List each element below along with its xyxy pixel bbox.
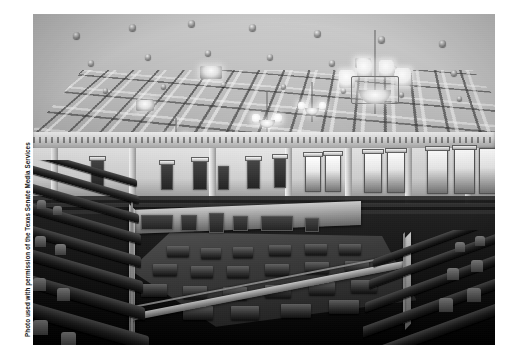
ceiling-boss xyxy=(457,96,462,101)
gallery-seat-back xyxy=(53,206,62,215)
gallery-seat-back xyxy=(475,236,485,246)
window-hood xyxy=(425,146,450,151)
wall-window xyxy=(479,148,495,194)
wall-window xyxy=(364,153,382,193)
gallery-seating-right xyxy=(363,230,495,345)
chandelier-globe xyxy=(379,60,394,77)
secondary-chandelier xyxy=(295,82,329,122)
member-desk xyxy=(281,304,311,318)
ceiling-boss xyxy=(188,20,195,27)
gallery-seat-back xyxy=(55,244,66,255)
ceiling-boss xyxy=(129,24,136,31)
gallery-seat-back xyxy=(33,320,48,335)
ceiling-boss xyxy=(249,24,256,31)
wall-window xyxy=(454,149,475,194)
member-desk xyxy=(231,306,259,320)
gallery-seat-back xyxy=(455,242,465,252)
gallery-seat-back xyxy=(61,332,76,345)
door-hood xyxy=(159,160,175,165)
member-desk xyxy=(201,248,221,259)
window-hood xyxy=(323,151,343,156)
wall-doorway xyxy=(274,158,286,188)
rostrum-panel xyxy=(233,216,248,231)
wall-window xyxy=(305,156,321,192)
ceiling-boss xyxy=(221,82,226,87)
rostrum-doorway xyxy=(209,213,224,233)
ceiling-boss xyxy=(267,54,273,60)
door-hood xyxy=(191,157,209,162)
ceiling-boss xyxy=(88,60,94,66)
window-hood xyxy=(452,145,477,150)
gallery-seat-back xyxy=(33,278,46,291)
chamber-photograph xyxy=(33,14,495,345)
door-hood xyxy=(272,154,288,159)
wall-doorway xyxy=(193,161,207,190)
ceiling-pendant-bowl xyxy=(200,66,222,79)
ceiling-boss xyxy=(73,32,80,39)
member-desk xyxy=(191,266,213,278)
wall-doorway xyxy=(161,164,173,190)
chandelier-bowl xyxy=(305,108,319,115)
member-desk xyxy=(233,247,253,258)
ceiling-boss xyxy=(103,88,108,93)
rostrum-panel xyxy=(305,218,319,232)
ceiling-boss xyxy=(161,84,166,89)
window-hood xyxy=(385,148,407,153)
member-desk xyxy=(339,244,361,255)
member-desk xyxy=(329,300,359,314)
ceiling-boss xyxy=(439,40,446,47)
gallery-seat-back xyxy=(467,288,481,302)
rostrum-panel xyxy=(261,216,293,231)
wall-doorway xyxy=(218,166,229,190)
page-canvas: Photo used with permission of the Texas … xyxy=(0,0,518,362)
wall-window xyxy=(427,150,448,194)
chandelier-rod xyxy=(312,82,313,122)
member-desk xyxy=(305,244,327,255)
window-hood xyxy=(303,152,323,157)
member-desk xyxy=(167,246,189,257)
gallery-seat-back xyxy=(57,288,70,301)
chandelier-globe xyxy=(298,102,305,110)
gallery-seat-back xyxy=(37,200,46,209)
chandelier-globe xyxy=(319,102,326,110)
rostrum-panel xyxy=(181,215,197,231)
ceiling-boss xyxy=(205,50,211,56)
gallery-seat-back xyxy=(471,260,483,272)
wall-doorway xyxy=(247,160,260,189)
window-hood xyxy=(362,149,384,154)
gallery-seat-back xyxy=(35,236,46,247)
wall-window xyxy=(387,152,405,193)
chandelier-globe xyxy=(274,114,282,123)
ceiling-boss xyxy=(145,54,151,60)
member-desk xyxy=(265,264,289,276)
main-chandelier xyxy=(333,30,417,114)
ceiling-boss xyxy=(451,70,457,76)
ceiling-boss xyxy=(281,84,286,89)
chandelier-bowl xyxy=(259,120,275,128)
wall-window xyxy=(325,155,341,192)
chandelier-globe xyxy=(357,60,372,77)
gallery-seating-left xyxy=(33,160,151,345)
door-hood xyxy=(245,156,262,161)
ceiling-boss xyxy=(314,30,321,37)
member-desk xyxy=(269,245,291,256)
secondary-chandelier xyxy=(249,92,285,134)
gallery-seat-back xyxy=(447,268,459,280)
gallery-seat-back xyxy=(439,298,453,312)
member-desk xyxy=(153,264,177,276)
member-desk xyxy=(227,266,249,278)
ceiling-pendant-bowl xyxy=(136,100,154,111)
